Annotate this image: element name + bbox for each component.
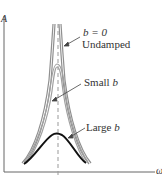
label-arrows [52, 37, 85, 138]
x-axis-label: ω [156, 166, 162, 176]
undamped-label-b0: b = 0 [83, 27, 107, 38]
undamped-label: Undamped [82, 39, 130, 50]
y-axis-label: A [1, 14, 7, 24]
small-b-label: Small b [84, 77, 118, 88]
large-b-label-var: b [114, 121, 120, 133]
large-b-label: Large b [86, 122, 120, 133]
small-b-label-text: Small [84, 76, 110, 88]
large-b-label-text: Large [86, 121, 111, 133]
small-b-label-var: b [112, 76, 118, 88]
undamped-curve [22, 24, 91, 164]
resonance-diagram [0, 0, 162, 176]
